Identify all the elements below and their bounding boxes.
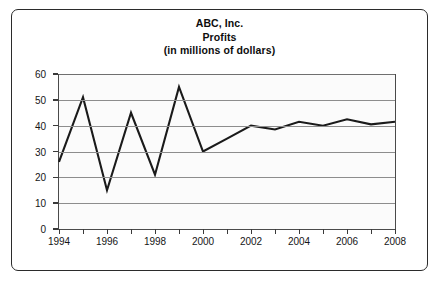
plot-area: 19941996199820002002200420062008 — [58, 74, 396, 230]
chart-title-block: ABC, Inc. Profits (in millions of dollar… — [0, 17, 439, 58]
x-tick-1995 — [83, 229, 84, 234]
x-axis-label-2006: 2006 — [336, 236, 358, 247]
gridline-y-50 — [59, 100, 395, 101]
x-tick-2000 — [203, 229, 204, 234]
x-tick-2007 — [371, 229, 372, 234]
x-tick-2003 — [275, 229, 276, 234]
x-axis-label-1996: 1996 — [96, 236, 118, 247]
x-axis-label-1998: 1998 — [144, 236, 166, 247]
chart-title: ABC, Inc. — [0, 17, 439, 31]
chart-figure: ABC, Inc. Profits (in millions of dollar… — [0, 0, 439, 281]
x-tick-2008 — [395, 229, 396, 234]
x-tick-2006 — [347, 229, 348, 234]
x-tick-2005 — [323, 229, 324, 234]
x-tick-1996 — [107, 229, 108, 234]
x-tick-2001 — [227, 229, 228, 234]
gridline-y-30 — [59, 152, 395, 153]
x-tick-1994 — [59, 229, 60, 234]
x-tick-1998 — [155, 229, 156, 234]
x-axis-label-2000: 2000 — [192, 236, 214, 247]
x-tick-2002 — [251, 229, 252, 234]
chart-units-note: (in millions of dollars) — [0, 44, 439, 58]
x-axis-label-2008: 2008 — [384, 236, 406, 247]
x-axis-label-2002: 2002 — [240, 236, 262, 247]
gridline-y-60 — [59, 74, 395, 75]
x-axis-label-2004: 2004 — [288, 236, 310, 247]
x-tick-2004 — [299, 229, 300, 234]
x-tick-1999 — [179, 229, 180, 234]
x-tick-1997 — [131, 229, 132, 234]
gridline-y-20 — [59, 177, 395, 178]
gridline-y-10 — [59, 203, 395, 204]
gridline-y-40 — [59, 126, 395, 127]
profits-polyline — [59, 87, 395, 190]
x-axis-label-1994: 1994 — [48, 236, 70, 247]
chart-subtitle: Profits — [0, 31, 439, 45]
